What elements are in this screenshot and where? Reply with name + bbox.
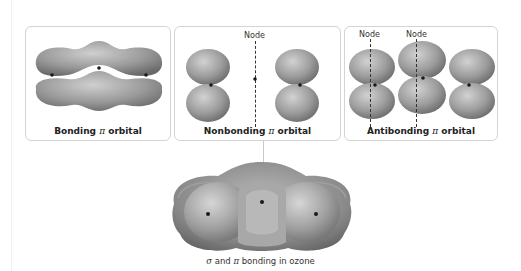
left-upper-lobe (349, 49, 395, 85)
nucleus-center (97, 66, 101, 70)
left-upper-lobe (186, 49, 230, 85)
node-label: Node (406, 30, 427, 39)
caption-text: Antibonding (367, 126, 432, 136)
caption-text: orbital (274, 126, 311, 136)
left-lower-lobe (349, 83, 395, 119)
caption-text: bonding in ozone (239, 256, 315, 266)
ozone-caption: σ and π bonding in ozone (0, 256, 521, 266)
nonbonding-pi-orbital-panel: Node Nonbonding π orbital (174, 26, 341, 141)
nucleus-center (253, 77, 257, 81)
nucleus-right (298, 83, 302, 87)
caption-text: orbital (438, 126, 475, 136)
center-lower-lobe (398, 76, 446, 114)
antibonding-caption: Antibonding π orbital (345, 126, 497, 136)
center-lobe-highlight (246, 190, 278, 235)
bonding-pi-orbital-panel: Bonding π orbital (25, 26, 171, 141)
node-line (416, 39, 417, 127)
nucleus-right (314, 212, 318, 216)
nucleus-left (373, 83, 377, 87)
nucleus-right (144, 73, 148, 77)
left-lower-lobe (186, 84, 230, 122)
nucleus-right (467, 83, 471, 87)
caption-text: Nonbonding (204, 126, 269, 136)
caption-text: orbital (105, 126, 142, 136)
nonbonding-orbital-image (185, 49, 331, 125)
nucleus-center (260, 200, 264, 204)
node-line (370, 39, 371, 127)
right-upper-lobe (449, 49, 495, 85)
nonbonding-caption: Nonbonding π orbital (175, 126, 340, 136)
nucleus-left (206, 212, 210, 216)
nucleus-center (421, 76, 425, 80)
antibonding-pi-orbital-panel: Node Node Antibonding π orbital (344, 26, 498, 141)
caption-text: and (212, 256, 233, 266)
center-upper-lobe (398, 41, 446, 79)
upper-lobe (36, 41, 162, 76)
page-margin-line (11, 0, 12, 271)
right-upper-lobe (275, 49, 319, 85)
right-lower-lobe (449, 83, 495, 119)
node-label: Node (244, 31, 265, 40)
caption-text: Bonding (54, 126, 99, 136)
nucleus-left (209, 83, 213, 87)
nucleus-left (50, 73, 54, 77)
bonding-orbital-image (32, 37, 166, 115)
lower-lobe (36, 71, 162, 111)
right-lower-lobe (275, 84, 319, 122)
node-label: Node (359, 30, 380, 39)
bonding-caption: Bonding π orbital (26, 126, 170, 136)
ozone-sigma-pi-image (168, 160, 356, 256)
